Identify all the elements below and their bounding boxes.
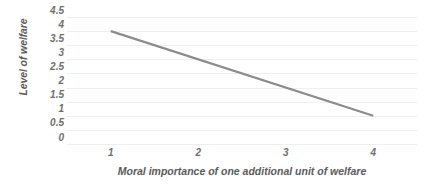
y-tick-label: 3.5 [24, 32, 64, 45]
y-tick-label: 0.5 [24, 116, 64, 129]
y-tick-label: 2.5 [24, 60, 64, 73]
y-tick-label: 1.5 [24, 88, 64, 101]
x-tick-label: 3 [266, 146, 306, 160]
x-axis-tick-labels: 1 2 3 4 [67, 146, 417, 160]
x-tick-label: 1 [91, 146, 131, 160]
y-tick-label: 1 [24, 102, 64, 115]
chart-container: Level of welfare 4.5 4 3.5 3 2.5 2 1.5 1… [0, 0, 427, 188]
welfare-line-series [111, 31, 374, 116]
x-tick-label: 4 [353, 146, 393, 160]
y-tick-label: 4.5 [24, 4, 64, 17]
y-tick-label: 3 [24, 46, 64, 59]
y-tick-label: 4 [24, 18, 64, 31]
plot-area [67, 17, 417, 144]
gridline [67, 144, 417, 145]
y-axis-tick-labels: 4.5 4 3.5 3 2.5 2 1.5 1 0.5 0 [24, 10, 64, 151]
x-tick-label: 2 [178, 146, 218, 160]
y-tick-label: 0 [24, 131, 64, 144]
y-tick-label: 2 [24, 74, 64, 87]
series-layer [67, 17, 417, 144]
x-axis-title: Moral importance of one additional unit … [67, 164, 417, 179]
